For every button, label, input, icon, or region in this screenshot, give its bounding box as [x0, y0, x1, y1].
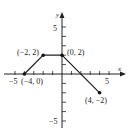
- data-point: [41, 53, 45, 57]
- point-label-a: (−4, 0): [21, 77, 43, 86]
- point-label-c: (0, 2): [67, 48, 85, 57]
- point-label-b: (−2, 2): [17, 48, 39, 57]
- data-point: [60, 53, 64, 57]
- y-tick-label-neg5: −5: [49, 117, 58, 126]
- function-graph: x y −5 5 5 −5 (−4, 0) (−2, 2) (0, 2) (4,…: [0, 0, 132, 134]
- x-tick-label-5: 5: [105, 77, 109, 86]
- y-axis-label: y: [55, 11, 60, 19]
- data-point: [98, 91, 102, 95]
- y-axis-arrow: [60, 12, 65, 18]
- point-label-d: (4, −2): [85, 96, 107, 105]
- data-point: [23, 72, 27, 76]
- x-tick-label-neg5: −5: [9, 77, 18, 86]
- x-axis-label: x: [117, 65, 122, 73]
- y-tick-label-5: 5: [53, 24, 57, 33]
